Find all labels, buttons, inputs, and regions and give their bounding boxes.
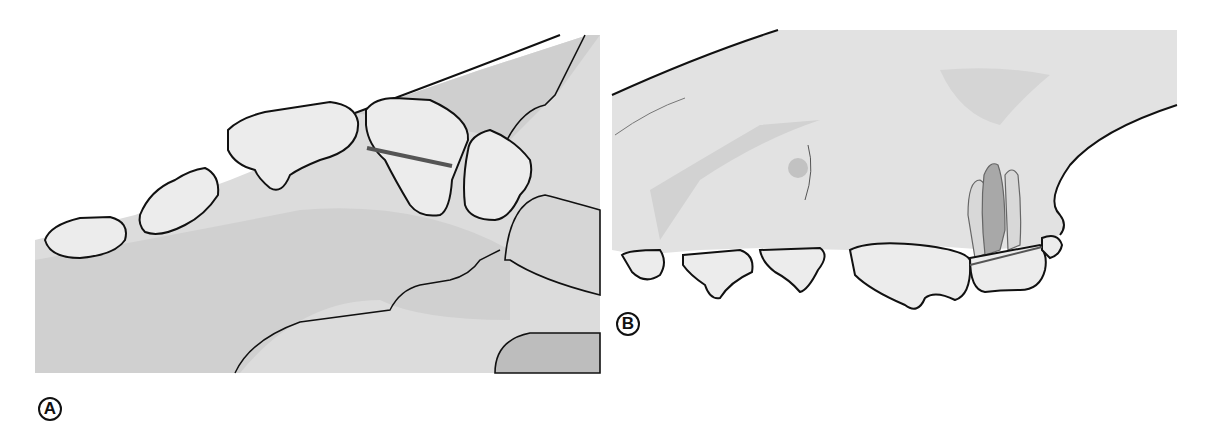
panel-b: B [605, 0, 1207, 424]
panel-label-b: B [616, 312, 640, 336]
maxilla [612, 30, 1177, 255]
infraorbital-foramen [788, 158, 808, 178]
panel-a-illustration [0, 0, 605, 424]
panel-label-a: A [38, 397, 62, 421]
panel-a: A [0, 0, 605, 424]
panel-b-illustration [605, 0, 1207, 424]
